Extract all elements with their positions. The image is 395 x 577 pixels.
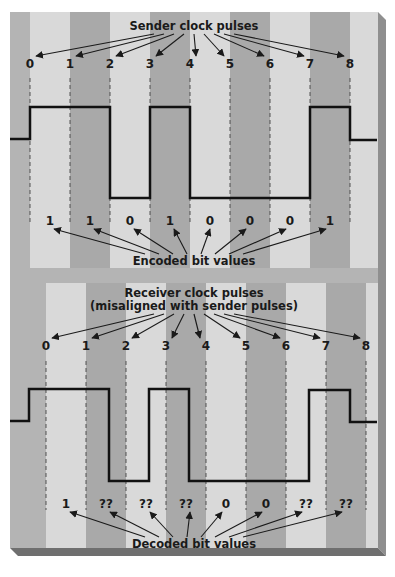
receiver-pulse-label-3: 3: [162, 339, 170, 353]
clock-misalignment-diagram: Sender clock pulses 012345678 11010001 E…: [0, 0, 395, 577]
receiver-title-line2: (misaligned with sender pulses): [90, 299, 298, 313]
encoded-bit-3: 1: [166, 214, 174, 228]
decoded-bit-7: ??: [339, 497, 353, 511]
stripe: [70, 12, 110, 268]
receiver-pulse-label-2: 2: [122, 339, 130, 353]
encoded-bit-4: 0: [206, 214, 214, 228]
decoded-bit-3: ??: [179, 497, 193, 511]
stripe: [366, 283, 378, 548]
sender-pulse-label-2: 2: [106, 57, 114, 71]
sender-pulse-label-0: 0: [26, 57, 34, 71]
encoded-bits-caption: Encoded bit values: [133, 254, 256, 268]
receiver-pulse-label-4: 4: [202, 339, 210, 353]
decoded-bit-2: ??: [139, 497, 153, 511]
receiver-pulse-label-5: 5: [242, 339, 250, 353]
receiver-pulse-label-7: 7: [322, 339, 330, 353]
decoded-bit-1: ??: [99, 497, 113, 511]
decoded-bits-caption: Decoded bit values: [132, 537, 256, 551]
panel-side-shade: [378, 12, 386, 556]
decoded-bit-4: 0: [222, 497, 230, 511]
receiver-pulse-label-1: 1: [82, 339, 90, 353]
sender-pulse-label-3: 3: [146, 57, 154, 71]
receiver-title-line1: Receiver clock pulses: [124, 286, 263, 300]
stripe: [270, 12, 310, 268]
sender-title: Sender clock pulses: [130, 19, 259, 33]
sender-pulse-label-6: 6: [266, 57, 274, 71]
encoded-bit-7: 1: [326, 214, 334, 228]
stripe: [150, 12, 190, 268]
decoded-bit-6: ??: [299, 497, 313, 511]
encoded-bit-5: 0: [246, 214, 254, 228]
decoded-bit-5: 0: [262, 497, 270, 511]
receiver-stripes: [46, 283, 378, 548]
receiver-pulse-label-0: 0: [42, 339, 50, 353]
decoded-bit-0: 1: [62, 497, 70, 511]
sender-pulse-label-8: 8: [346, 57, 354, 71]
sender-pulse-label-5: 5: [226, 57, 234, 71]
encoded-bit-0: 1: [46, 214, 54, 228]
encoded-bit-6: 0: [286, 214, 294, 228]
encoded-bit-1: 1: [86, 214, 94, 228]
sender-pulse-label-4: 4: [186, 57, 194, 71]
sender-pulse-label-7: 7: [306, 57, 314, 71]
encoded-bit-2: 0: [126, 214, 134, 228]
sender-pulse-label-1: 1: [66, 57, 74, 71]
receiver-pulse-label-8: 8: [362, 339, 370, 353]
receiver-pulse-label-6: 6: [282, 339, 290, 353]
